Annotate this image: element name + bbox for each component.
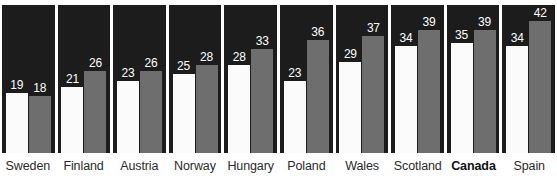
bar-wrapper: 36 xyxy=(307,5,329,153)
bar-wrapper: 23 xyxy=(284,5,306,153)
category-axis-labels: SwedenFinlandAustriaNorwayHungaryPolandW… xyxy=(0,158,557,180)
bar-value-label: 34 xyxy=(395,32,417,44)
category-label-canada: Canada xyxy=(446,158,502,180)
bar-wrapper: 23 xyxy=(117,5,139,153)
bar-wrapper: 42 xyxy=(529,5,551,153)
bar-value-label: 42 xyxy=(529,7,551,19)
bar-group: 2336 xyxy=(280,5,333,153)
bar-value-label: 39 xyxy=(418,16,440,28)
bar-wrapper: 34 xyxy=(506,5,528,153)
chart-group-panel: 3439 xyxy=(391,5,444,153)
bar-wrapper: 33 xyxy=(251,5,273,153)
bar-wrapper: 39 xyxy=(474,5,496,153)
chart-group-panel: 2126 xyxy=(58,5,111,153)
category-label-finland: Finland xyxy=(56,158,112,180)
category-label-wales: Wales xyxy=(334,158,390,180)
bar-group: 3442 xyxy=(502,5,555,153)
bar-group: 2833 xyxy=(224,5,277,153)
bar-wrapper: 18 xyxy=(29,5,51,153)
bar-group: 3439 xyxy=(391,5,444,153)
bar-group: 2326 xyxy=(113,5,166,153)
bar-wrapper: 26 xyxy=(84,5,106,153)
chart-group-panel: 3442 xyxy=(502,5,555,153)
category-label-spain: Spain xyxy=(501,158,557,180)
bar-value-label: 25 xyxy=(173,60,195,72)
bar-value-label: 18 xyxy=(29,82,51,94)
bar-wrapper: 28 xyxy=(196,5,218,153)
chart-group-panel: 2833 xyxy=(224,5,277,153)
bar xyxy=(196,65,218,153)
bar-value-label: 34 xyxy=(506,32,528,44)
bar xyxy=(173,74,195,153)
category-label-austria: Austria xyxy=(111,158,167,180)
bar xyxy=(228,65,250,153)
bar xyxy=(395,46,417,153)
category-label-hungary: Hungary xyxy=(223,158,279,180)
bar-value-label: 39 xyxy=(474,16,496,28)
bar xyxy=(362,36,384,153)
bar xyxy=(61,87,83,153)
bar-value-label: 28 xyxy=(228,51,250,63)
chart-group-panel: 2937 xyxy=(336,5,389,153)
category-label-norway: Norway xyxy=(167,158,223,180)
chart-group-panel: 2336 xyxy=(280,5,333,153)
bar xyxy=(451,43,473,153)
bar-wrapper: 29 xyxy=(339,5,361,153)
grouped-bar-chart: 1918212623262528283323362937343935393442… xyxy=(0,0,557,186)
chart-group-panel: 2528 xyxy=(169,5,222,153)
bar-value-label: 19 xyxy=(6,79,28,91)
bar xyxy=(506,46,528,153)
bar-wrapper: 26 xyxy=(140,5,162,153)
bar xyxy=(474,30,496,153)
bar xyxy=(339,62,361,153)
bar-group: 2126 xyxy=(58,5,111,153)
bar-value-label: 35 xyxy=(451,29,473,41)
bar xyxy=(84,71,106,153)
bar-wrapper: 21 xyxy=(61,5,83,153)
bar xyxy=(418,30,440,153)
category-label-poland: Poland xyxy=(279,158,335,180)
bar-group: 1918 xyxy=(2,5,55,153)
bar-wrapper: 39 xyxy=(418,5,440,153)
bar-wrapper: 19 xyxy=(6,5,28,153)
bar-group: 3539 xyxy=(447,5,500,153)
bar-value-label: 23 xyxy=(284,67,306,79)
bar-value-label: 28 xyxy=(196,51,218,63)
bar-value-label: 21 xyxy=(61,73,83,85)
bar xyxy=(29,96,51,153)
bar-value-label: 26 xyxy=(84,57,106,69)
bar xyxy=(284,81,306,153)
category-label-sweden: Sweden xyxy=(0,158,56,180)
bar-wrapper: 37 xyxy=(362,5,384,153)
chart-group-panel: 2326 xyxy=(113,5,166,153)
bar-value-label: 33 xyxy=(251,35,273,47)
bar xyxy=(117,81,139,153)
bar-group: 2937 xyxy=(336,5,389,153)
chart-group-panel: 1918 xyxy=(2,5,55,153)
bar-wrapper: 35 xyxy=(451,5,473,153)
bar-value-label: 29 xyxy=(339,48,361,60)
bar xyxy=(307,40,329,153)
bar-wrapper: 25 xyxy=(173,5,195,153)
bar xyxy=(251,49,273,153)
bar-value-label: 37 xyxy=(362,22,384,34)
bar xyxy=(6,93,28,153)
bar-value-label: 36 xyxy=(307,26,329,38)
chart-group-panel: 3539 xyxy=(447,5,500,153)
bar-group: 2528 xyxy=(169,5,222,153)
bar xyxy=(529,21,551,153)
bar-value-label: 23 xyxy=(117,67,139,79)
chart-plot-area: 1918212623262528283323362937343935393442 xyxy=(0,5,557,153)
bar-wrapper: 34 xyxy=(395,5,417,153)
bar-wrapper: 28 xyxy=(228,5,250,153)
bar xyxy=(140,71,162,153)
category-label-scotland: Scotland xyxy=(390,158,446,180)
bar-value-label: 26 xyxy=(140,57,162,69)
